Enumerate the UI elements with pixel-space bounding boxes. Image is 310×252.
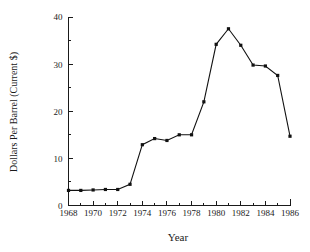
x-tick-label: 1986 — [281, 208, 300, 218]
x-tick-label: 1974 — [133, 208, 152, 218]
data-point-marker — [227, 27, 230, 30]
x-tick-label: 1972 — [109, 208, 127, 218]
data-point-marker — [202, 100, 205, 103]
data-point-marker — [116, 188, 119, 191]
y-axis-ticks — [69, 17, 74, 206]
data-point-marker — [79, 189, 82, 192]
x-tick-label: 1968 — [60, 208, 79, 218]
y-tick-label: 10 — [54, 154, 64, 164]
data-point-marker — [264, 64, 267, 67]
data-point-marker — [128, 183, 131, 186]
data-point-marker — [251, 63, 254, 66]
y-tick-label: 30 — [54, 60, 64, 70]
line-chart-canvas: Dollars Per Barrel (Current $) Year 0102… — [0, 0, 310, 252]
data-point-marker — [288, 135, 291, 138]
data-point-marker — [239, 44, 242, 47]
x-tick-label: 1978 — [183, 208, 202, 218]
data-point-marker — [104, 188, 107, 191]
y-tick-label: 20 — [54, 107, 64, 117]
data-point-marker — [67, 189, 70, 192]
data-point-marker — [153, 137, 156, 140]
data-point-marker — [92, 188, 95, 191]
chart-figure: Dollars Per Barrel (Current $) Year 0102… — [0, 0, 310, 252]
y-axis-title: Dollars Per Barrel (Current $) — [8, 52, 20, 172]
data-point-marker — [276, 74, 279, 77]
x-axis-tick-labels: 1968197019721974197619781980198219841986 — [60, 208, 300, 218]
x-axis-ticks — [69, 201, 291, 206]
data-point-marker — [178, 133, 181, 136]
data-point-marker — [215, 43, 218, 46]
x-tick-label: 1970 — [84, 208, 103, 218]
data-point-marker — [141, 143, 144, 146]
data-point-marker — [165, 139, 168, 142]
y-axis-tick-labels: 010203040 — [54, 12, 64, 211]
x-tick-label: 1984 — [256, 208, 275, 218]
x-tick-label: 1976 — [158, 208, 177, 218]
x-axis-title: Year — [168, 231, 189, 243]
data-point-marker — [190, 133, 193, 136]
x-tick-label: 1980 — [207, 208, 226, 218]
data-point-markers — [67, 27, 292, 192]
y-tick-label: 40 — [54, 12, 64, 22]
x-tick-label: 1982 — [232, 208, 250, 218]
data-line-series — [69, 29, 291, 191]
